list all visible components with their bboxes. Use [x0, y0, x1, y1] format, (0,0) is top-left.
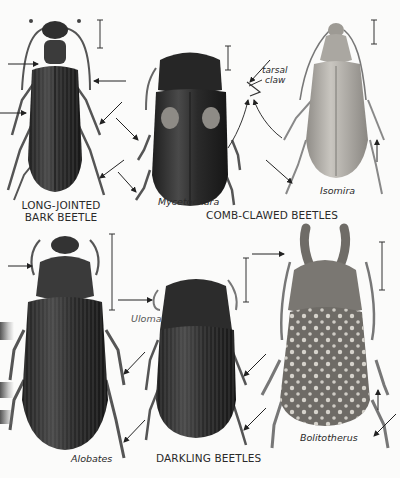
species-label-uloma: Uloma [131, 313, 161, 324]
bolitotherus-illustration [252, 228, 396, 448]
tarsal-claw-annotation: tarsal claw [262, 65, 287, 85]
group-label-line-2: BARK BEETLE [12, 211, 110, 223]
mycetochara-illustration [116, 46, 240, 206]
group-label-line-1: LONG-JOINTED [12, 199, 110, 211]
page-edge-shadow [0, 322, 14, 340]
species-label-bolitotherus: Bolitotherus [300, 432, 358, 443]
species-label-isomira: Isomira [320, 185, 355, 196]
group-label-long-jointed: LONG-JOINTED BARK BEETLE [12, 199, 110, 223]
group-label-comb-clawed: COMB-CLAWED BEETLES [206, 209, 338, 221]
species-label-mycetochara: Mycetochara [158, 196, 219, 207]
alobates-illustration [8, 234, 145, 458]
page-edge-shadow [0, 382, 14, 398]
long-jointed-bark-beetle-illustration [0, 19, 126, 200]
claw-label: claw [262, 75, 287, 85]
species-label-alobates: Alobates [71, 453, 112, 464]
tarsal-label: tarsal [262, 65, 287, 75]
illustrations [0, 0, 400, 478]
group-label-darkling: DARKLING BEETLES [156, 452, 261, 464]
beetle-plate: LONG-JOINTED BARK BEETLE Mycetochara COM… [0, 0, 400, 478]
isomira-illustration [266, 20, 384, 194]
page-edge-shadow [0, 410, 14, 424]
uloma-illustration [118, 258, 266, 445]
